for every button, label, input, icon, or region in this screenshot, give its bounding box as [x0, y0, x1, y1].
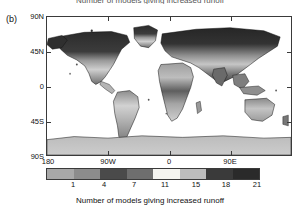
y-tick-label-0: 0 — [40, 82, 44, 91]
y-tick-label-45s: 45S — [31, 117, 44, 126]
y-tick-label-90n: 90N — [30, 12, 44, 21]
island-dot — [165, 113, 167, 115]
map-plot-area — [47, 17, 291, 155]
tick-x-0 — [170, 17, 171, 21]
colorbar-segment-0 — [47, 169, 74, 179]
tick-y-right-0 — [287, 87, 291, 88]
x-tick-label-180: 180 — [42, 157, 55, 166]
map-axes — [46, 16, 292, 156]
figure-panel-b: Number of models giving increased runoff… — [0, 0, 300, 213]
island-dot — [69, 73, 71, 75]
tick-y-45s — [47, 122, 51, 123]
tick-x-90e — [231, 17, 232, 21]
world-runoff-heatmap — [47, 17, 291, 155]
colorbar-segment-4 — [153, 169, 180, 179]
colorbar-tick-11: 11 — [161, 180, 169, 189]
x-tick-label-0: 0 — [167, 157, 171, 166]
colorbar-tick-21: 21 — [253, 180, 261, 189]
island-dot — [275, 90, 277, 92]
tick-x-bottom-90e — [231, 151, 232, 155]
colorbar-caption: Number of models giving increased runoff — [0, 196, 300, 205]
tick-x-bottom-90w — [108, 151, 109, 155]
colorbar-tick-4: 4 — [102, 180, 106, 189]
colorbar-segment-5 — [180, 169, 207, 179]
tick-x-bottom-0 — [170, 151, 171, 155]
colorbar-segment-3 — [127, 169, 154, 179]
tick-y-right-45s — [287, 122, 291, 123]
colorbar-segment-6 — [206, 169, 233, 179]
island-dot — [76, 63, 78, 65]
colorbar-segment-1 — [74, 169, 101, 179]
colorbar-segment-2 — [100, 169, 127, 179]
region-new-zealand — [283, 115, 288, 126]
tick-y-45n — [47, 52, 51, 53]
x-tick-label-90w: 90W — [100, 157, 115, 166]
colorbar-segment-7 — [233, 169, 260, 179]
region-antarctica — [47, 136, 291, 155]
tick-y-0 — [47, 87, 51, 88]
x-tick-label-90e: 90E — [223, 157, 236, 166]
colorbar-tick-1: 1 — [71, 180, 75, 189]
colorbar-tick-labels: 1 4 7 11 15 18 21 — [46, 180, 260, 190]
colorbar — [46, 168, 260, 180]
colorbar-tick-15: 15 — [192, 180, 200, 189]
colorbar-tick-7: 7 — [132, 180, 136, 189]
island-dot — [91, 30, 93, 32]
island-dot — [148, 99, 150, 101]
tick-y-right-45n — [287, 52, 291, 53]
y-tick-label-45n: 45N — [30, 47, 44, 56]
cropped-figure-title: Number of models giving increased runoff — [0, 0, 300, 4]
panel-label: (b) — [6, 14, 17, 24]
colorbar-tick-18: 18 — [222, 180, 230, 189]
tick-x-90w — [108, 17, 109, 21]
